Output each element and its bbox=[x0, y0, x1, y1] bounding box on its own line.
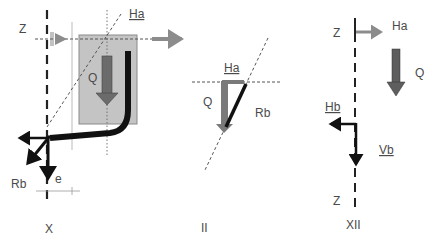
e-label: e bbox=[55, 172, 62, 186]
rb-label: Rb bbox=[11, 177, 27, 191]
q-arrow-head bbox=[216, 124, 233, 133]
z-bottom-label: Z bbox=[333, 194, 340, 208]
q-label: Q bbox=[415, 66, 424, 80]
q-label: Q bbox=[203, 95, 212, 109]
q-arrow-shaft bbox=[221, 81, 228, 125]
ha-label: Ha bbox=[392, 19, 408, 33]
ha-label: Ha bbox=[224, 61, 240, 75]
z-axis-label: Z bbox=[19, 22, 26, 36]
rb-vector bbox=[226, 84, 246, 127]
q-arrow-head bbox=[387, 82, 405, 96]
triangle-pointer-icon bbox=[55, 33, 67, 45]
figure-x: Z Ha Q Rb e X bbox=[11, 7, 180, 236]
figure-ii: Ha Q Rb II bbox=[192, 38, 280, 235]
z-top-label: Z bbox=[333, 26, 340, 40]
ha-label: Ha bbox=[129, 7, 145, 21]
figure-xii: Z Ha Q Hb Vb Z XII bbox=[325, 18, 424, 232]
q-label: Q bbox=[88, 71, 97, 85]
hb-label: Hb bbox=[325, 100, 341, 114]
figure-caption-ii: II bbox=[201, 221, 208, 235]
q-arrow-shaft bbox=[392, 49, 400, 83]
rb-label: Rb bbox=[255, 106, 271, 120]
vb-label: Vb bbox=[379, 143, 394, 157]
figure-caption-xii: XII bbox=[346, 218, 361, 232]
force-diagram-canvas: Z Ha Q Rb e X Ha Q Rb II Z bbox=[0, 0, 439, 247]
figure-caption-x: X bbox=[45, 222, 53, 236]
q-arrow-shaft bbox=[102, 56, 112, 94]
